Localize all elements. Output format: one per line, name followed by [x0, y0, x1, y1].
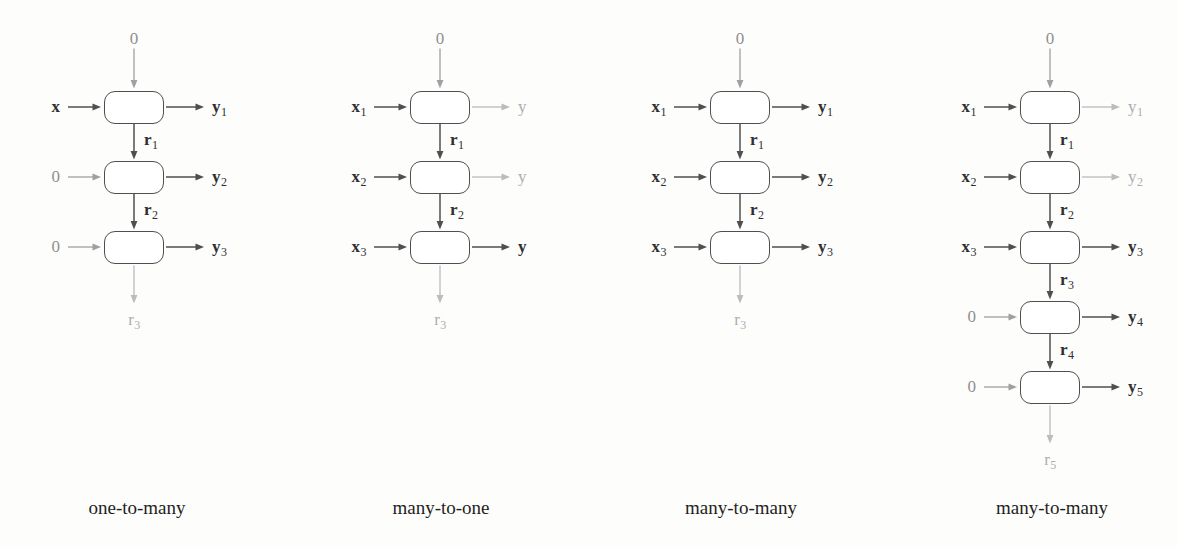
output-arrow-many-to-many-b-1	[1082, 104, 1120, 111]
rnn-cell-many-to-many-b-3	[1020, 231, 1080, 264]
input-arrow-many-to-many-b-4	[984, 314, 1017, 321]
initial-state-arrow-many-to-many-b	[1047, 49, 1054, 89]
output-label-many-to-many-b-1: y1	[1128, 98, 1143, 115]
panel-caption-many-to-many-b: many-to-many	[996, 498, 1108, 517]
rnn-unfolding-figure: xy1r10y2r20y30r3one-to-manyx1yr1x2yr2x3y…	[0, 0, 1177, 549]
recurrent-arrow-many-to-many-b-2	[1047, 194, 1054, 230]
recurrent-label-many-to-many-b-3: r3	[1060, 271, 1074, 288]
input-label-many-to-many-b-1: x1	[962, 98, 977, 115]
input-arrow-many-to-many-b-1	[984, 104, 1017, 111]
input-label-many-to-many-b-3: x3	[962, 238, 977, 255]
rnn-cell-many-to-many-b-4	[1020, 301, 1080, 334]
recurrent-label-many-to-many-b-1: r1	[1060, 131, 1074, 148]
output-arrow-many-to-many-b-2	[1082, 174, 1120, 181]
final-state-arrow-many-to-many-b	[1047, 406, 1054, 444]
input-label-many-to-many-b-4: 0	[968, 308, 977, 325]
input-label-many-to-many-b-2: x2	[962, 168, 977, 185]
input-arrow-many-to-many-b-3	[984, 244, 1017, 251]
final-state-label-many-to-many-b: r5	[1044, 451, 1056, 468]
recurrent-arrow-many-to-many-b-3	[1047, 264, 1054, 300]
input-arrow-many-to-many-b-5	[984, 384, 1017, 391]
panel-many-to-many-b: x1y1r1x2y2r2x3y3r30y4r40y50r5	[0, 0, 1177, 549]
recurrent-arrow-many-to-many-b-4	[1047, 334, 1054, 370]
rnn-cell-many-to-many-b-2	[1020, 161, 1080, 194]
recurrent-label-many-to-many-b-4: r4	[1060, 341, 1074, 358]
output-arrow-many-to-many-b-3	[1082, 244, 1120, 251]
panel-arrows-many-to-many-b	[0, 0, 295, 549]
input-label-many-to-many-b-5: 0	[968, 378, 977, 395]
input-arrow-many-to-many-b-2	[984, 174, 1017, 181]
rnn-cell-many-to-many-b-1	[1020, 91, 1080, 124]
output-arrow-many-to-many-b-4	[1082, 314, 1120, 321]
output-arrow-many-to-many-b-5	[1082, 384, 1120, 391]
initial-state-label-many-to-many-b: 0	[1046, 30, 1055, 47]
recurrent-label-many-to-many-b-2: r2	[1060, 201, 1074, 218]
output-label-many-to-many-b-2: y2	[1128, 168, 1143, 185]
output-label-many-to-many-b-3: y3	[1128, 238, 1143, 255]
output-label-many-to-many-b-5: y5	[1128, 378, 1143, 395]
rnn-cell-many-to-many-b-5	[1020, 371, 1080, 404]
output-label-many-to-many-b-4: y4	[1128, 308, 1143, 325]
recurrent-arrow-many-to-many-b-1	[1047, 124, 1054, 160]
